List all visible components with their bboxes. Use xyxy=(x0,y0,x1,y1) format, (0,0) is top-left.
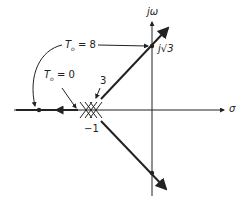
point-real xyxy=(37,108,41,112)
upper-branch xyxy=(101,28,168,99)
t8-label: To = 8 xyxy=(65,40,96,52)
point-neg-jsqrt3 xyxy=(150,171,154,175)
multiplicity-label: 3 xyxy=(100,76,106,86)
imag-axis-label: jω xyxy=(147,7,158,17)
t0-arrow xyxy=(62,88,76,108)
t8-arrow-right xyxy=(98,45,148,46)
point-jsqrt3 xyxy=(150,44,154,48)
t0-label: To = 0 xyxy=(44,70,75,82)
lower-branch xyxy=(101,121,166,189)
root-locus-diagram xyxy=(0,0,241,204)
jsqrt3-label: j√3 xyxy=(158,44,174,54)
three-arrow xyxy=(96,88,100,98)
neg-one-label: −1 xyxy=(84,124,99,134)
real-axis-label: σ xyxy=(229,104,235,114)
